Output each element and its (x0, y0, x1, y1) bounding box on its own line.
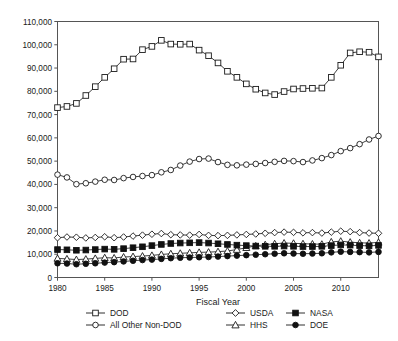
data-point-marker (234, 75, 240, 81)
data-point-marker (149, 231, 156, 238)
data-point-marker (196, 47, 202, 53)
y-axis-tick-label: 20,000 (27, 227, 52, 236)
data-point-marker (74, 261, 80, 267)
data-point-marker (366, 230, 373, 237)
data-point-marker (206, 53, 212, 59)
data-point-marker (92, 234, 99, 241)
data-point-marker (140, 47, 146, 53)
data-point-marker (159, 170, 165, 176)
data-point-marker (121, 56, 127, 62)
data-point-marker (328, 243, 334, 249)
data-point-marker (319, 85, 325, 91)
data-point-marker (73, 234, 80, 241)
y-axis-tick-label: 10,000 (27, 250, 52, 259)
data-point-marker (328, 229, 335, 236)
data-point-marker (74, 181, 80, 187)
data-point-marker (92, 84, 98, 90)
data-point-marker (74, 101, 80, 107)
data-point-marker (281, 250, 287, 256)
data-point-marker (177, 255, 183, 261)
data-point-marker (159, 256, 165, 262)
data-point-marker (244, 252, 250, 258)
data-point-marker (139, 232, 146, 239)
data-point-marker (262, 244, 268, 250)
data-point-marker (225, 242, 231, 248)
data-point-marker (281, 243, 287, 249)
data-point-marker (64, 104, 70, 110)
data-point-marker (187, 41, 193, 47)
data-point-marker (121, 259, 127, 265)
legend-item-label: All Other Non-DOD (110, 320, 182, 330)
data-point-marker (262, 230, 269, 237)
legend-item-all-other-non-dod[interactable]: All Other Non-DOD (86, 320, 182, 330)
data-point-marker (291, 158, 297, 164)
research-funding-line-chart: 010,00020,00030,00040,00050,00060,00070,… (0, 0, 398, 341)
chart-legend: DODUSDANASAAll Other Non-DODHHSDOE (86, 308, 333, 330)
data-point-marker (55, 247, 61, 253)
series-usda (54, 228, 382, 241)
data-point-marker (262, 160, 268, 166)
data-point-marker (300, 86, 306, 92)
data-point-marker (159, 38, 165, 44)
data-point-marker (262, 90, 268, 96)
y-axis-tick-label: 60,000 (27, 134, 52, 143)
legend-item-dod[interactable]: DOD (86, 308, 129, 318)
data-point-marker (168, 41, 174, 47)
data-point-marker (300, 230, 307, 237)
data-point-marker (102, 246, 108, 252)
data-point-marker (158, 230, 165, 237)
data-point-marker (309, 229, 316, 236)
data-point-marker (149, 257, 155, 263)
x-axis-tick-label: 2005 (284, 284, 303, 293)
legend-item-nasa[interactable]: NASA (286, 308, 333, 318)
data-point-marker (310, 85, 316, 91)
legend-item-label: DOE (310, 320, 329, 330)
legend-item-hhs[interactable]: HHS (226, 320, 268, 330)
data-point-marker (328, 250, 334, 256)
data-point-marker (121, 175, 127, 181)
data-point-marker (177, 42, 183, 48)
data-point-marker (215, 159, 221, 165)
data-point-marker (300, 251, 306, 257)
data-point-marker (64, 261, 70, 267)
data-point-marker (347, 50, 353, 56)
data-point-marker (102, 260, 108, 266)
data-point-marker (102, 75, 108, 81)
data-point-marker (319, 155, 325, 161)
data-point-marker (272, 251, 278, 257)
y-axis-tick-label: 110,000 (23, 18, 52, 27)
y-axis-tick-label: 100,000 (22, 41, 52, 50)
data-point-marker (205, 232, 212, 239)
data-point-marker (74, 247, 80, 253)
data-point-marker (177, 232, 184, 239)
data-point-marker (262, 251, 268, 257)
data-point-marker (347, 145, 353, 151)
data-point-marker (130, 56, 136, 62)
data-point-marker (291, 244, 297, 250)
data-point-marker (366, 250, 372, 256)
data-point-marker (272, 92, 278, 98)
data-point-marker (215, 232, 222, 239)
legend-item-usda[interactable]: USDA (226, 308, 274, 318)
data-point-marker (347, 228, 354, 235)
y-axis-tick-label: 70,000 (27, 111, 52, 120)
data-point-marker (93, 322, 99, 328)
data-point-marker (338, 62, 344, 68)
data-point-marker (338, 148, 344, 154)
legend-item-label: DOD (110, 308, 129, 318)
data-point-marker (140, 244, 146, 250)
data-point-marker (111, 66, 117, 72)
data-point-marker (130, 233, 137, 240)
x-axis-tick-label: 1985 (96, 284, 115, 293)
y-axis-tick-label: 40,000 (27, 180, 52, 189)
data-point-marker (376, 54, 382, 60)
data-point-marker (159, 242, 165, 248)
data-point-marker (253, 161, 259, 167)
data-point-marker (102, 177, 108, 183)
data-point-marker (55, 172, 61, 178)
data-point-marker (64, 234, 71, 241)
legend-item-label: NASA (310, 308, 333, 318)
legend-item-doe[interactable]: DOE (286, 320, 329, 330)
data-point-marker (83, 261, 89, 267)
data-point-marker (93, 310, 99, 316)
